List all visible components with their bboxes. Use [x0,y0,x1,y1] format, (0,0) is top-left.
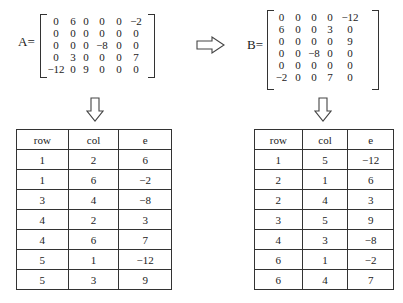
right-arrow-icon [196,36,226,54]
matrix-cell: 6 [273,23,290,35]
table-cell: 5 [17,250,69,270]
matrix-cell: 7 [322,71,338,83]
matrix-cell: −12 [46,63,66,75]
matrix-cell: 0 [92,15,112,27]
matrix-cell: 0 [46,15,66,27]
table-cell: 1 [68,250,119,270]
matrix-cell: 9 [338,35,362,47]
table-cell: 3 [302,230,348,250]
table-cell: 1 [255,150,303,170]
table-cell: 6 [68,230,119,250]
matrix-cell: 0 [273,35,290,47]
triple-table-b: rowcole15−1221624335943−861−2647 [254,129,394,290]
down-arrow-icon [86,97,104,123]
table-cell: 6 [255,250,303,270]
matrix-cell: 0 [290,23,306,35]
matrix-cell: 0 [66,39,80,51]
matrix-b: 0000−12600300000900−80000000−20070 [273,11,362,83]
matrix-cell: 0 [290,11,306,23]
matrix-cell: 0 [306,35,322,47]
matrix-cell: 0 [80,51,92,63]
column-header: row [17,130,69,150]
table-header-row: rowcole [255,130,394,150]
table-cell: 4 [302,190,348,210]
table-cell: 5 [302,150,348,170]
table-cell: 6 [68,170,119,190]
matrix-cell: 0 [338,59,362,71]
matrix-cell: 0 [290,47,306,59]
matrix-cell: 0 [290,35,306,47]
table-row: 423 [17,210,172,230]
table-cell: 2 [255,190,303,210]
matrix-cell: 0 [92,63,112,75]
matrix-cell: 0 [46,51,66,63]
table-row: 15−12 [255,150,394,170]
table-row: 61−2 [255,250,394,270]
table-cell: −8 [348,230,394,250]
table-row: 539 [17,270,172,290]
matrix-cell: 0 [112,27,126,39]
matrix-cell: 0 [290,59,306,71]
matrix-cell: 0 [126,63,146,75]
matrix-a-label: A= [18,34,35,50]
matrix-cell: 0 [112,51,126,63]
matrix-cell: 6 [66,15,80,27]
table-row: 647 [255,270,394,290]
matrix-cell: −2 [273,71,290,83]
table-row: 126 [17,150,172,170]
table-cell: 3 [348,190,394,210]
matrix-cell: 0 [322,59,338,71]
matrix-cell: 0 [66,27,80,39]
matrix-cell: 0 [338,23,362,35]
matrix-cell: 3 [66,51,80,63]
table-cell: −12 [348,150,394,170]
table-cell: 3 [17,190,69,210]
table-cell: −8 [119,190,172,210]
matrix-a: 06000−2000000000−800030007−1209000 [46,15,146,75]
column-header: row [255,130,303,150]
matrix-cell: 0 [92,27,112,39]
table-cell: 3 [255,210,303,230]
table-cell: 7 [348,270,394,290]
table-cell: −2 [119,170,172,190]
matrix-cell: −8 [306,47,322,59]
table-cell: 1 [17,150,69,170]
matrix-cell: −12 [338,11,362,23]
table-cell: 7 [119,230,172,250]
matrix-cell: 0 [273,11,290,23]
table-cell: 9 [348,210,394,230]
table-cell: 4 [68,190,119,210]
column-header: col [68,130,119,150]
matrix-cell: 0 [92,51,112,63]
column-header: col [302,130,348,150]
matrix-cell: 0 [273,59,290,71]
column-header: e [119,130,172,150]
matrix-cell: 0 [112,39,126,51]
matrix-cell: 0 [126,39,146,51]
matrix-cell: 0 [112,63,126,75]
table-cell: 4 [302,270,348,290]
matrix-cell: 3 [322,23,338,35]
matrix-cell: 0 [322,35,338,47]
table-row: 51−12 [17,250,172,270]
table-cell: 6 [348,170,394,190]
matrix-cell: −8 [92,39,112,51]
matrix-cell: 0 [306,11,322,23]
table-cell: −12 [119,250,172,270]
table-row: 216 [255,170,394,190]
table-row: 359 [255,210,394,230]
table-cell: 2 [68,150,119,170]
column-header: e [348,130,394,150]
table-cell: 3 [68,270,119,290]
table-cell: 1 [17,170,69,190]
matrix-cell: 0 [80,27,92,39]
matrix-cell: 0 [46,39,66,51]
table-row: 34−8 [17,190,172,210]
matrix-cell: 0 [112,15,126,27]
matrix-cell: 0 [306,71,322,83]
table-cell: 4 [255,230,303,250]
matrix-cell: 0 [338,47,362,59]
table-cell: 4 [17,210,69,230]
table-row: 16−2 [17,170,172,190]
matrix-cell: 9 [80,63,92,75]
